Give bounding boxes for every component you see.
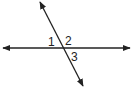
- transversal-line: [40, 2, 83, 86]
- angle-label-2: 2: [65, 34, 72, 48]
- angle-label-1: 1: [48, 35, 55, 49]
- diagram-canvas: 1 2 3: [0, 0, 132, 91]
- diagram: 1 2 3: [0, 0, 132, 91]
- angle-label-3: 3: [71, 50, 78, 64]
